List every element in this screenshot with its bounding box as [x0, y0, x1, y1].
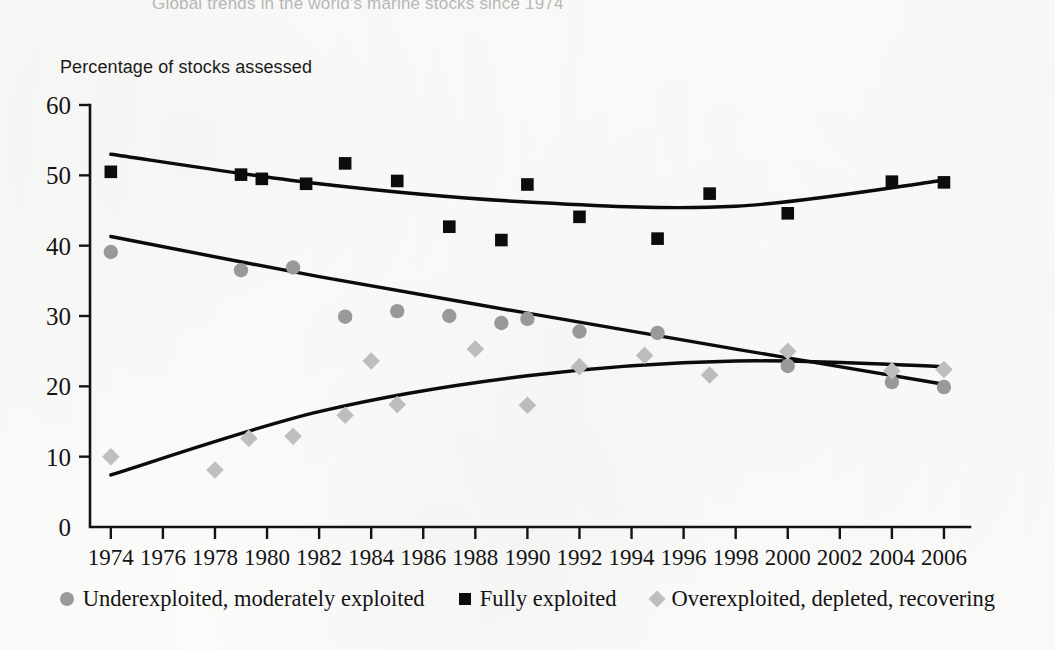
y-tick-label-10: 10	[46, 444, 71, 471]
chart-legend: Underexploited, moderately exploitedFull…	[0, 586, 1055, 612]
x-tick-label-2006: 2006	[921, 545, 967, 570]
data-point-circle	[442, 309, 456, 323]
data-point-square	[651, 232, 664, 245]
legend-diamond-marker-icon	[648, 591, 665, 608]
data-point-circle	[104, 245, 118, 259]
legend-label: Overexploited, depleted, recovering	[672, 586, 996, 612]
chart-plot-area: 0102030405060197419761978198019821984198…	[0, 0, 1055, 650]
y-tick-label-30: 30	[46, 303, 71, 330]
data-point-diamond	[284, 428, 302, 446]
chart-svg: 0102030405060197419761978198019821984198…	[0, 0, 1055, 650]
x-tick-label-1986: 1986	[400, 545, 446, 570]
data-point-circle	[781, 359, 795, 373]
legend-entry-diamond[interactable]: Overexploited, depleted, recovering	[651, 586, 996, 612]
y-tick-label-20: 20	[46, 373, 71, 400]
data-point-square	[339, 157, 352, 170]
data-point-square	[300, 177, 313, 190]
x-tick-label-1980: 1980	[244, 545, 290, 570]
legend-square-marker-icon	[459, 593, 471, 605]
x-tick-label-1984: 1984	[348, 545, 395, 570]
x-tick-label-1992: 1992	[556, 545, 602, 570]
data-point-square	[938, 176, 951, 189]
x-tick-label-1994: 1994	[609, 545, 656, 570]
legend-label: Underexploited, moderately exploited	[83, 586, 425, 612]
data-point-circle	[572, 324, 586, 338]
data-point-square	[573, 211, 586, 224]
x-tick-label-1978: 1978	[192, 545, 238, 570]
y-tick-label-40: 40	[46, 233, 71, 260]
y-tick-label-60: 60	[46, 92, 71, 119]
data-point-diamond	[388, 396, 406, 414]
data-point-diamond	[935, 361, 953, 379]
data-point-diamond	[362, 352, 380, 370]
data-point-diamond	[206, 461, 224, 479]
data-point-circle	[338, 310, 352, 324]
data-point-square	[105, 166, 118, 179]
data-point-square	[521, 178, 534, 191]
data-point-circle	[494, 316, 508, 330]
y-tick-label-0: 0	[59, 514, 72, 541]
data-point-square	[256, 173, 269, 186]
x-tick-label-2004: 2004	[869, 545, 916, 570]
x-tick-label-1982: 1982	[296, 545, 342, 570]
data-point-square	[391, 175, 404, 188]
y-tick-label-50: 50	[46, 162, 71, 189]
data-point-square	[703, 187, 716, 200]
x-tick-label-1976: 1976	[140, 545, 186, 570]
x-tick-label-2002: 2002	[817, 545, 863, 570]
x-tick-label-1998: 1998	[713, 545, 759, 570]
x-tick-label-1996: 1996	[661, 545, 707, 570]
data-point-circle	[286, 260, 300, 274]
data-point-diamond	[701, 366, 719, 384]
x-tick-label-2000: 2000	[765, 545, 811, 570]
data-point-circle	[234, 263, 248, 277]
trendline-diamond	[111, 361, 944, 475]
data-point-diamond	[467, 340, 485, 358]
data-point-square	[886, 175, 899, 188]
data-point-circle	[390, 304, 404, 318]
x-tick-label-1974: 1974	[88, 545, 135, 570]
data-point-diamond	[336, 406, 354, 424]
x-tick-label-1988: 1988	[452, 545, 498, 570]
data-point-diamond	[636, 347, 654, 365]
legend-entry-square[interactable]: Fully exploited	[459, 586, 617, 612]
data-point-diamond	[571, 358, 589, 376]
data-point-square	[235, 168, 248, 181]
x-tick-label-1990: 1990	[504, 545, 550, 570]
data-point-circle	[650, 326, 664, 340]
data-point-square	[781, 207, 794, 220]
data-point-circle	[520, 312, 534, 326]
legend-circle-marker-icon	[60, 592, 74, 606]
data-point-diamond	[102, 448, 120, 466]
legend-label: Fully exploited	[480, 586, 617, 612]
data-point-square	[443, 220, 456, 233]
data-point-diamond	[519, 397, 537, 415]
data-point-circle	[937, 380, 951, 394]
data-point-square	[495, 234, 508, 247]
legend-entry-circle[interactable]: Underexploited, moderately exploited	[60, 586, 425, 612]
